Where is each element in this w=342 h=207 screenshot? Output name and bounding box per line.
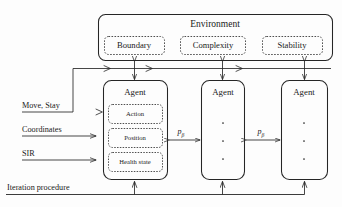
- agent-attribute-label-position: Position: [124, 135, 146, 142]
- agent-ellipsis-dot: [303, 122, 305, 124]
- agent-title-3: Agent: [293, 88, 315, 97]
- agent-ellipsis-dot: [222, 158, 224, 160]
- interaction-label-1-subscript: β: [182, 132, 185, 138]
- environment-component-label-stability: Stability: [277, 41, 306, 50]
- agent-title-1: Agent: [124, 88, 146, 97]
- environment-component-label-boundary: Boundary: [117, 41, 151, 50]
- interaction-label-1: pβ: [178, 128, 185, 138]
- agent-attribute-label-action: Action: [126, 111, 144, 118]
- input-label-iteration-procedure: Iteration procedure: [7, 184, 70, 192]
- environment-title: Environment: [190, 20, 240, 30]
- environment-component-label-complexity: Complexity: [193, 41, 234, 50]
- input-label-sir: SIR: [22, 150, 35, 158]
- agent-ellipsis-dot: [303, 140, 305, 142]
- agent-ellipsis-dot: [222, 140, 224, 142]
- agent-attribute-label-health-state: Health state: [119, 159, 150, 166]
- agent-ellipsis-dot: [303, 158, 305, 160]
- input-label-coordinates: Coordinates: [22, 126, 62, 134]
- agent-title-2: Agent: [212, 88, 234, 97]
- interaction-label-2-subscript: β: [262, 132, 265, 138]
- move-stay-feed-path: [22, 69, 331, 113]
- agent-ellipsis-dot: [222, 122, 224, 124]
- move-stay-arrowhead-into-agent: [96, 109, 102, 115]
- diagram-canvas: Environment Boundary Complexity Stabilit…: [0, 0, 342, 207]
- interaction-label-2: pβ: [258, 128, 265, 138]
- input-label-move-stay: Move, Stay: [22, 102, 60, 110]
